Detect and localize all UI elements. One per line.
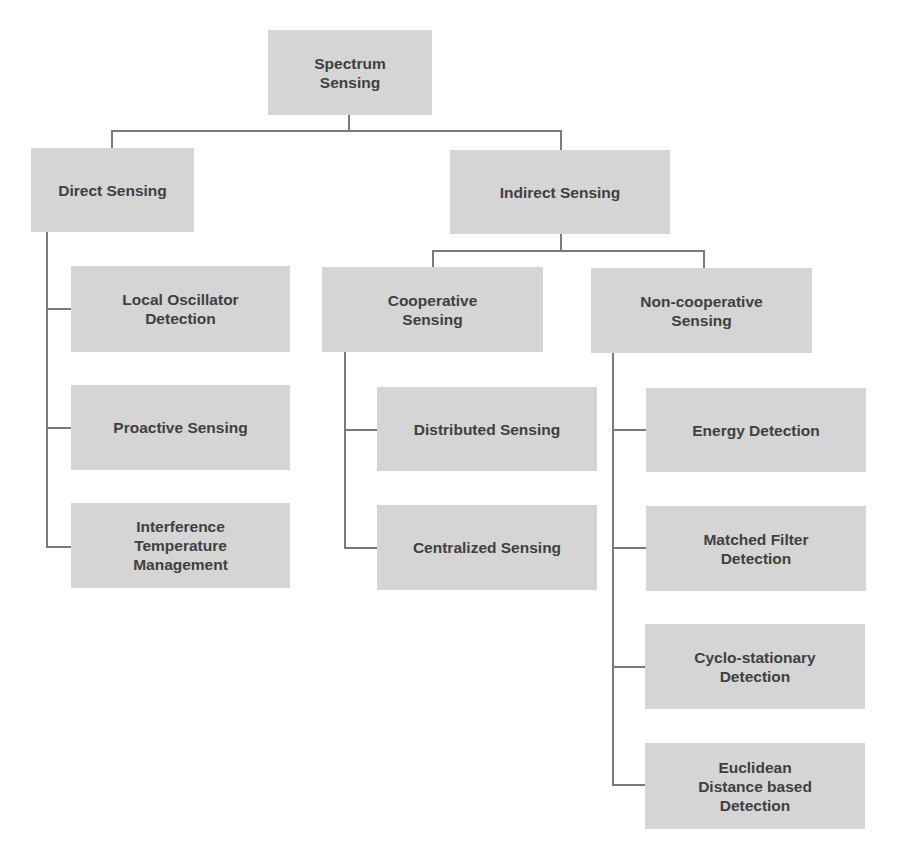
connector-noncooperative-child-4 xyxy=(612,784,646,786)
node-cooperative-sensing: Cooperative Sensing xyxy=(322,267,543,352)
node-euclidean-distance-detection: Euclidean Distance based Detection xyxy=(645,743,865,829)
connector-direct-child-1 xyxy=(46,308,71,310)
connector-noncooperative-child-3 xyxy=(612,666,646,668)
connector-direct-spine xyxy=(46,232,48,548)
connector-to-noncooperative xyxy=(703,250,705,268)
connector-direct-child-2 xyxy=(46,427,71,429)
node-interference-temperature-management: Interference Temperature Management xyxy=(71,503,290,588)
connector-direct-child-3 xyxy=(46,546,71,548)
node-non-cooperative-sensing: Non-cooperative Sensing xyxy=(591,268,812,353)
node-indirect-sensing: Indirect Sensing xyxy=(450,150,670,234)
connector-cooperative-spine xyxy=(344,352,346,549)
connector-to-cooperative xyxy=(432,250,434,267)
node-proactive-sensing: Proactive Sensing xyxy=(71,385,290,470)
connector-level1-bar xyxy=(111,130,562,132)
node-centralized-sensing: Centralized Sensing xyxy=(377,505,597,590)
node-cyclo-stationary-detection: Cyclo-stationary Detection xyxy=(645,624,865,709)
connector-noncooperative-child-1 xyxy=(612,429,646,431)
node-distributed-sensing: Distributed Sensing xyxy=(377,387,597,471)
node-direct-sensing: Direct Sensing xyxy=(31,148,194,232)
connector-cooperative-child-2 xyxy=(344,547,377,549)
connector-noncooperative-spine xyxy=(612,353,614,786)
connector-noncooperative-child-2 xyxy=(612,547,646,549)
node-energy-detection: Energy Detection xyxy=(646,388,866,472)
node-spectrum-sensing: Spectrum Sensing xyxy=(268,30,432,115)
node-matched-filter-detection: Matched Filter Detection xyxy=(646,506,866,591)
connector-to-direct xyxy=(111,130,113,148)
connector-to-indirect xyxy=(560,130,562,150)
node-local-oscillator-detection: Local Oscillator Detection xyxy=(71,266,290,352)
connector-level2-bar xyxy=(432,250,705,252)
connector-cooperative-child-1 xyxy=(344,429,377,431)
